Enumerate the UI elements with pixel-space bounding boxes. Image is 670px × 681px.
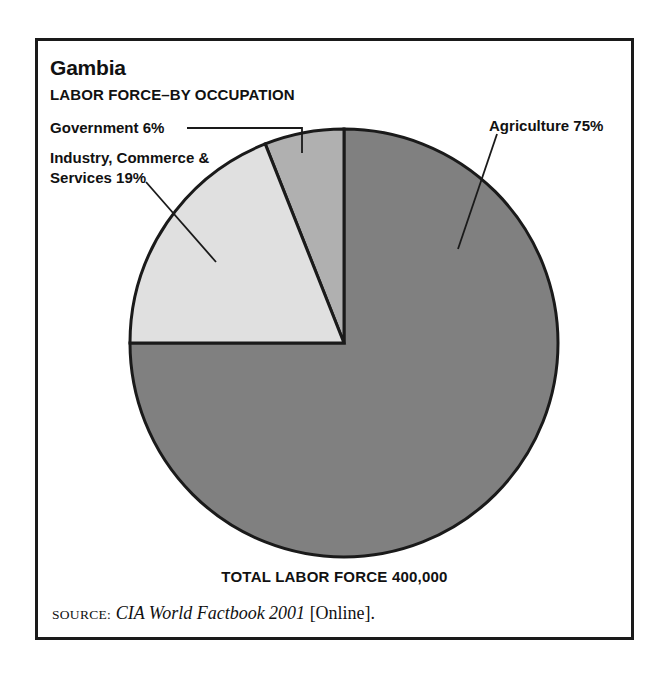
total-labor-force-label: TOTAL LABOR FORCE 400,000 <box>44 568 625 586</box>
source-note: SOURCE: CIA World Factbook 2001 [Online]… <box>52 603 375 624</box>
chart-subtitle: LABOR FORCE–BY OCCUPATION <box>50 86 295 104</box>
slice-label-industry-line2: Services 19% <box>50 168 209 188</box>
source-suffix: [Online]. <box>310 603 375 623</box>
slice-label-agriculture: Agriculture 75% <box>489 116 603 136</box>
slice-label-government: Government 6% <box>50 118 164 138</box>
slice-label-industry: Industry, Commerce & Services 19% <box>50 148 209 189</box>
source-keyword: SOURCE: <box>52 607 111 622</box>
figure-container: Gambia LABOR FORCE–BY OCCUPATION Governm… <box>0 0 670 681</box>
page-title: Gambia <box>50 56 126 80</box>
source-title: CIA World Factbook 2001 <box>116 603 306 623</box>
slice-label-industry-line1: Industry, Commerce & <box>50 148 209 168</box>
